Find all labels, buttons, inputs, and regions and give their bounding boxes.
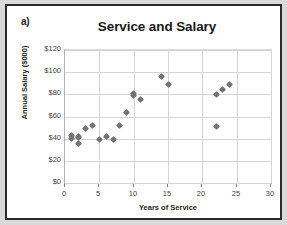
data-point-marker bbox=[110, 136, 117, 143]
chart-title: Service and Salary bbox=[47, 19, 267, 34]
x-axis-tick-marks bbox=[64, 184, 272, 188]
data-point-marker bbox=[137, 96, 144, 103]
x-axis-tick-mark bbox=[201, 184, 202, 187]
data-point-marker bbox=[219, 86, 226, 93]
x-axis-tick-mark bbox=[64, 184, 65, 187]
data-point-marker bbox=[164, 81, 171, 88]
x-axis-tick-label: 10 bbox=[121, 189, 145, 198]
y-axis-tick-label: $20 bbox=[21, 156, 61, 164]
data-point-marker bbox=[213, 91, 220, 98]
y-axis-title: Annual Salary ($000) bbox=[20, 28, 29, 138]
x-axis-tick-mark bbox=[270, 184, 271, 187]
x-axis-tick-label: 5 bbox=[86, 189, 110, 198]
gridline-vertical bbox=[168, 50, 169, 183]
data-point-marker bbox=[82, 125, 89, 132]
gridline-vertical bbox=[237, 50, 238, 183]
x-axis-tick-mark bbox=[133, 184, 134, 187]
data-point-marker bbox=[116, 122, 123, 129]
gridline-vertical bbox=[99, 50, 100, 183]
data-point-marker bbox=[158, 73, 165, 80]
data-point-marker bbox=[89, 122, 96, 129]
x-axis-tick-mark bbox=[167, 184, 168, 187]
figure-outer-background: a) Service and Salary $0$20$40$60$80$100… bbox=[0, 0, 287, 225]
x-axis-tick-mark bbox=[98, 184, 99, 187]
plot-area bbox=[64, 49, 272, 184]
x-axis-title: Years of Service bbox=[64, 203, 272, 212]
x-axis-tick-label: 0 bbox=[52, 189, 76, 198]
gridline-vertical bbox=[134, 50, 135, 183]
data-point-marker bbox=[75, 140, 82, 147]
panel-label: a) bbox=[21, 16, 30, 27]
gridline-vertical bbox=[271, 50, 272, 183]
x-axis-tick-labels: 051015202530 bbox=[64, 189, 272, 201]
data-point-marker bbox=[96, 136, 103, 143]
x-axis-tick-mark bbox=[236, 184, 237, 187]
y-axis-tick-label: $0 bbox=[21, 178, 61, 186]
x-axis-tick-label: 15 bbox=[155, 189, 179, 198]
x-axis-tick-label: 30 bbox=[258, 189, 282, 198]
x-axis-tick-label: 25 bbox=[224, 189, 248, 198]
figure-border: a) Service and Salary $0$20$40$60$80$100… bbox=[5, 4, 282, 220]
x-axis-tick-label: 20 bbox=[189, 189, 213, 198]
data-point-marker bbox=[123, 109, 130, 116]
data-point-marker bbox=[226, 81, 233, 88]
gridline-vertical bbox=[202, 50, 203, 183]
data-point-marker bbox=[213, 123, 220, 130]
